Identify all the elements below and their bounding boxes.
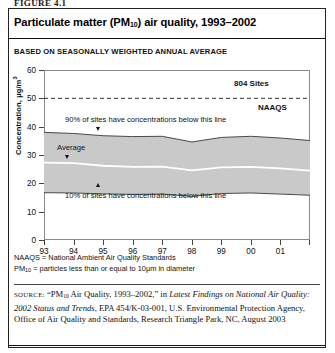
source-note: SOURCE: “PM10 Air Quality, 1993–2002,” i… — [14, 289, 316, 326]
y-label-10: 10 — [27, 207, 36, 216]
note-pm10-suffix: = particles less than or equal to 10µm i… — [31, 264, 195, 273]
title-suffix: ) air quality, 1993–2002 — [138, 16, 257, 28]
chart-canvas — [44, 70, 310, 240]
source-label: SOURCE: — [14, 291, 45, 298]
source-t1: “PM — [45, 289, 63, 299]
x-label-99: 99 — [217, 247, 226, 256]
page-title: Particulate matter (PM10) air quality, 1… — [14, 16, 314, 28]
y-label-0: 0 — [31, 236, 36, 245]
p90-marker-icon — [96, 127, 100, 131]
y-label-30: 30 — [27, 151, 36, 160]
note-naaqs: NAAQS = National Ambient Air Quality Sta… — [14, 253, 195, 264]
annotation-p10: 10% of sites have concentrations below t… — [65, 191, 226, 200]
annotation-average: Average — [57, 143, 85, 152]
y-axis-title: Concentration, µg/m3 — [12, 76, 23, 155]
title-subscript: 10 — [130, 21, 138, 28]
note-pm10-prefix: PM — [14, 264, 25, 273]
notes-divider — [14, 284, 320, 285]
x-tick-95 — [103, 240, 104, 245]
y-label-50: 50 — [27, 94, 36, 103]
x-label-00: 00 — [246, 247, 255, 256]
x-tick-99 — [221, 240, 222, 245]
bottom-divider — [9, 345, 325, 346]
source-t2: Air Quality, 1993–2002,” in — [69, 289, 169, 299]
x-tick-97 — [162, 240, 163, 245]
x-tick-02 — [309, 240, 310, 245]
figure-notes: NAAQS = National Ambient Air Quality Sta… — [14, 253, 195, 275]
figure-root: FIGURE 4.1 Particulate matter (PM10) air… — [0, 0, 335, 353]
annotation-naaqs: NAAQS — [258, 103, 287, 112]
note-pm10: PM10 = particles less than or equal to 1… — [14, 264, 195, 276]
p10-marker-icon — [96, 183, 100, 187]
annotation-sites: 804 Sites — [234, 79, 269, 88]
x-tick-00 — [251, 240, 252, 245]
x-tick-96 — [133, 240, 134, 245]
title-divider — [9, 38, 325, 39]
y-label-20: 20 — [27, 179, 36, 188]
annotation-p90: 90% of sites have concentrations below t… — [65, 115, 226, 124]
x-label-01: 01 — [276, 247, 285, 256]
x-tick-93 — [44, 240, 45, 245]
y-label-60: 60 — [27, 66, 36, 75]
x-tick-98 — [192, 240, 193, 245]
average-marker-icon — [65, 155, 69, 159]
plot-area: 60 50 40 30 20 10 0 93 94 95 96 97 98 99… — [44, 70, 310, 240]
y-label-40: 40 — [27, 122, 36, 131]
title-prefix: Particulate matter (PM — [14, 16, 130, 28]
chart-subtitle: BASED ON SEASONALLY WEIGHTED ANNUAL AVER… — [14, 47, 227, 56]
x-tick-94 — [74, 240, 75, 245]
figure-number: FIGURE 4.1 — [14, 0, 67, 8]
x-tick-01 — [280, 240, 281, 245]
